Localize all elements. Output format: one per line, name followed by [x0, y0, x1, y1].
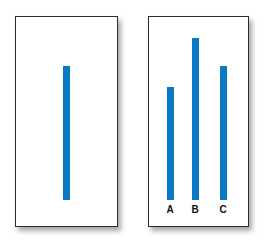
- label-b: B: [188, 204, 202, 215]
- comparison-panel: A B C: [148, 16, 249, 227]
- comparison-line-a: [167, 87, 174, 200]
- comparison-line-c: [220, 66, 227, 200]
- reference-panel: [15, 16, 118, 227]
- reference-line: [63, 66, 70, 200]
- label-c: C: [216, 204, 230, 215]
- label-a: A: [163, 204, 177, 215]
- comparison-line-b: [192, 38, 199, 200]
